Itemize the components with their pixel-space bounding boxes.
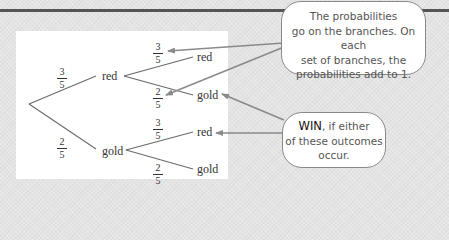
prob-root-gold: 2 5	[57, 137, 67, 160]
arrow-to-red-gold	[222, 94, 284, 120]
node-gold: gold	[102, 145, 123, 157]
node-red: red	[102, 70, 117, 82]
prob-gold-gold: 2 5	[153, 163, 163, 186]
node-red-red: red	[197, 51, 212, 63]
arrow-to-fraction-mid	[166, 47, 284, 95]
win-emphasis: WIN	[299, 119, 322, 133]
prob-red-red: 3 5	[153, 42, 163, 65]
node-gold-gold: gold	[197, 163, 218, 175]
prob-gold-red: 3 5	[153, 118, 163, 141]
callout-win: WIN, if either of these outcomes occur.	[282, 112, 386, 168]
arrow-to-fraction-top	[168, 43, 284, 51]
node-red-gold: gold	[197, 89, 218, 101]
node-gold-red: red	[197, 126, 212, 138]
prob-root-red: 3 5	[57, 67, 67, 90]
callout-probabilities: The probabilities go on the branches. On…	[281, 1, 426, 75]
prob-red-gold: 2 5	[153, 87, 163, 110]
